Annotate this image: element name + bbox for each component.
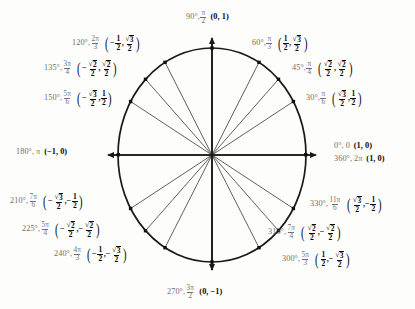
coordinate-30: ( √3 2 , 1 2 )	[327, 90, 363, 107]
left-paren: (	[87, 248, 91, 262]
right-paren: )	[123, 248, 127, 262]
label-210-degrees: 210°, 7π 6 ( − √3 2 , − 1 2 )	[10, 193, 84, 210]
coordinate-360: (1, 0)	[362, 155, 384, 164]
right-paren: )	[113, 62, 117, 76]
angle-degrees-90: 90°,	[186, 13, 200, 22]
right-paren: )	[346, 253, 350, 267]
coordinate-0: (1, 0)	[350, 142, 372, 151]
coordinate-180: (−1, 0)	[40, 148, 67, 157]
angle-degrees-270: 270°,	[167, 288, 185, 297]
coordinate-90: (0, 1)	[207, 13, 229, 22]
angle-degrees-60: 60°,	[252, 39, 266, 48]
angle-radians-90: π 2	[200, 10, 207, 25]
left-paren: (	[301, 226, 305, 240]
angle-radians-300: 5π 3	[300, 252, 310, 267]
label-225-degrees: 225°, 5π 4 ( − √2 2 , − √2 2 )	[22, 221, 101, 238]
right-paren: )	[96, 223, 100, 237]
label-240-degrees: 240°, 4π 3 ( − 1 2 , − √3 2 )	[54, 246, 128, 263]
label-30-degrees: 30°, π 6 ( √3 2 , 1 2 )	[306, 90, 362, 107]
angle-degrees-360: 360°,	[334, 155, 352, 164]
label-135-degrees: 135°, 3π 4 ( − √2 2 , √2 2 )	[44, 60, 118, 77]
label-45-degrees: 45°, π 4 ( √2 2 , √2 2 )	[292, 60, 353, 77]
left-paren: (	[278, 37, 282, 51]
label-360-degrees: 360°, 2π (1, 0)	[334, 155, 384, 164]
unit-circle-figure: 90°, π 2 (0, 1) 120°, 2π 3 ( − 1 2 ,	[0, 0, 415, 309]
angle-degrees-45: 45°,	[292, 64, 306, 73]
right-paren: )	[108, 92, 112, 106]
label-315-degrees: 315°, 7π 4 ( √2 2 , − √2 2 )	[268, 224, 342, 241]
left-paren: (	[347, 198, 351, 212]
label-330-degrees: 330°, 11π 6 ( √3 2 , − 1 2 )	[310, 196, 382, 213]
angle-radians-60: π 3	[266, 36, 273, 51]
coordinate-315: ( √2 2 , − √2 2 )	[296, 224, 342, 241]
angle-radians-150: 5π 6	[62, 91, 72, 106]
angle-degrees-135: 135°,	[44, 64, 62, 73]
coordinate-225: ( − √2 2 , − √2 2 )	[50, 221, 100, 238]
coordinate-135: ( − √2 2 , √2 2 )	[72, 60, 118, 77]
label-60-degrees: 60°, π 3 ( 1 2 , √3 2 )	[252, 35, 308, 52]
label-270-degrees: 270°, 3π 2 (0, −1)	[167, 285, 222, 300]
angle-radians-210: 7π 6	[28, 194, 38, 209]
right-paren: )	[349, 62, 353, 76]
left-paren: (	[77, 62, 81, 76]
right-paren: )	[358, 92, 362, 106]
angle-degrees-225: 225°,	[22, 225, 40, 234]
label-90-degrees: 90°, π 2 (0, 1)	[186, 10, 229, 25]
coordinate-210: ( − √3 2 , − 1 2 )	[38, 193, 84, 210]
angle-degrees-30: 30°,	[306, 94, 320, 103]
angle-degrees-240: 240°,	[54, 250, 72, 259]
left-paren: (	[318, 62, 322, 76]
label-120-degrees: 120°, 2π 3 ( − 1 2 , √3 2 )	[72, 35, 141, 52]
left-paren: (	[77, 92, 81, 106]
angle-radians-270: 3π 2	[185, 285, 195, 300]
angle-radians-120: 2π 3	[90, 36, 100, 51]
label-300-degrees: 300°, 5π 3 ( 1 2 , − √3 2 )	[282, 251, 351, 268]
angle-radians-30: π 6	[320, 91, 327, 106]
right-paren: )	[378, 198, 382, 212]
coordinate-45: ( √2 2 , √2 2 )	[313, 60, 354, 77]
angle-radians-225: 5π 4	[40, 222, 50, 237]
angle-degrees-120: 120°,	[72, 39, 90, 48]
angle-degrees-180: 180°,	[16, 148, 34, 157]
angle-degrees-150: 150°,	[44, 94, 62, 103]
left-paren: (	[105, 37, 109, 51]
angle-degrees-300: 300°,	[282, 255, 300, 264]
coordinate-270: (0, −1)	[195, 288, 222, 297]
angle-radians-360: 2π	[352, 155, 362, 164]
angle-degrees-210: 210°,	[10, 197, 28, 206]
label-0-degrees: 0°, 0 (1, 0)	[334, 142, 372, 151]
coordinate-330: ( √3 2 , − 1 2 )	[342, 196, 383, 213]
angle-radians-240: 4π 3	[72, 247, 82, 262]
coordinate-60: ( 1 2 , √3 2 )	[273, 35, 309, 52]
label-180-degrees: 180°, π (−1, 0)	[16, 148, 67, 157]
coordinate-300: ( 1 2 , − √3 2 )	[310, 251, 351, 268]
coordinate-240: ( − 1 2 , − √3 2 )	[82, 246, 128, 263]
right-paren: )	[337, 226, 341, 240]
angle-radians-315: 7π 4	[286, 225, 296, 240]
left-paren: (	[55, 223, 59, 237]
angle-degrees-0: 0°,	[334, 142, 344, 151]
coordinate-150: ( − √3 2 , 1 2 )	[72, 90, 113, 107]
right-paren: )	[136, 37, 140, 51]
angle-radians-45: π 4	[306, 61, 313, 76]
left-paren: (	[43, 195, 47, 209]
coordinate-120: ( − 1 2 , √3 2 )	[100, 35, 141, 52]
angle-radians-135: 3π 4	[62, 61, 72, 76]
left-paren: (	[315, 253, 319, 267]
right-paren: )	[304, 37, 308, 51]
angle-radians-330: 11π 6	[328, 197, 342, 212]
label-150-degrees: 150°, 5π 6 ( − √3 2 , 1 2 )	[44, 90, 113, 107]
angle-degrees-315: 315°,	[268, 228, 286, 237]
left-paren: (	[332, 92, 336, 106]
right-paren: )	[79, 195, 83, 209]
angle-degrees-330: 330°,	[310, 200, 328, 209]
